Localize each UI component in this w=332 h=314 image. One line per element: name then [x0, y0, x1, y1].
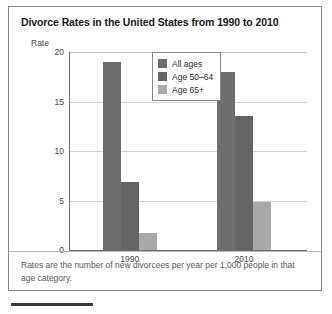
bar	[139, 233, 157, 250]
y-axis-tick-label: 20	[55, 47, 64, 57]
legend-swatch-all-ages	[158, 59, 167, 68]
y-axis-tick-label: 0	[59, 245, 64, 255]
legend-label-age-65-plus: Age 65+	[172, 85, 204, 95]
chart-legend: All ages Age 50–64 Age 65+	[152, 52, 221, 101]
bar	[235, 116, 253, 250]
legend-item-age-65-plus: Age 65+	[158, 83, 213, 96]
legend-label-all-ages: All ages	[172, 59, 202, 69]
legend-item-all-ages: All ages	[158, 57, 213, 70]
footnote-text: Rates are the number of new divorcees pe…	[21, 259, 299, 285]
legend-swatch-age-65-plus	[158, 85, 167, 94]
y-axis-tick-label: 15	[55, 97, 64, 107]
bar	[253, 202, 271, 250]
bottom-accent-bar	[11, 303, 93, 306]
y-axis-line	[69, 52, 70, 250]
y-axis-tick-label: 10	[55, 146, 64, 156]
bar	[121, 182, 139, 250]
chart-figure-frame: Divorce Rates in the United States from …	[8, 6, 322, 291]
legend-label-age-50-64: Age 50–64	[172, 72, 213, 82]
legend-item-age-50-64: Age 50–64	[158, 70, 213, 83]
bar	[103, 62, 121, 250]
page-title: Divorce Rates in the United States from …	[21, 16, 278, 28]
y-axis-title: Rate	[31, 38, 49, 48]
y-axis-tick-label: 5	[59, 196, 64, 206]
footnote-divider	[9, 251, 321, 252]
legend-swatch-age-50-64	[158, 72, 167, 81]
